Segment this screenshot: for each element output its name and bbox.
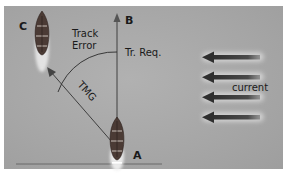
current-arrow-1	[202, 52, 264, 64]
track-error-label-line2: Error	[72, 41, 96, 51]
current-arrow-4	[202, 112, 264, 124]
track-error-label-line1: Track	[72, 29, 98, 39]
track-required-label: Tr. Req.	[125, 48, 161, 58]
point-c-label: C	[19, 21, 27, 32]
point-b-label: B	[125, 15, 133, 26]
required-track-arrow	[114, 13, 121, 130]
tmg-label: TMG	[75, 78, 99, 103]
point-a-label: A	[133, 150, 142, 161]
boat-a	[110, 117, 124, 171]
boat-c	[35, 11, 49, 72]
current-label: current	[232, 83, 268, 93]
current-arrow-3	[202, 92, 264, 104]
tmg-track-arrow	[47, 67, 112, 142]
